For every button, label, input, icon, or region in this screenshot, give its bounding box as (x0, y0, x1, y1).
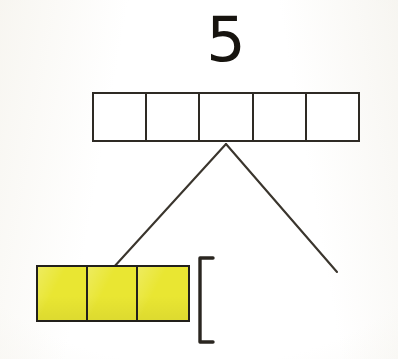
bar-cell-3[interactable] (200, 94, 253, 140)
worksheet-canvas: 5 (0, 0, 398, 359)
yellow-cube-1[interactable] (38, 267, 88, 320)
total-number-label: 5 (186, 9, 266, 71)
bar-cell-5[interactable] (307, 94, 358, 140)
yellow-cube-3[interactable] (138, 267, 188, 320)
bracket-stroke (200, 258, 213, 342)
bar-cell-2[interactable] (147, 94, 200, 140)
branch-line-right (226, 144, 337, 272)
grouping-bracket-icon (193, 254, 217, 346)
bar-cell-1[interactable] (94, 94, 147, 140)
yellow-cube-2[interactable] (88, 267, 138, 320)
branch-line-left (113, 144, 226, 268)
bar-cell-4[interactable] (254, 94, 307, 140)
yellow-cube-group (36, 265, 190, 322)
five-cell-bar-model (92, 92, 360, 142)
